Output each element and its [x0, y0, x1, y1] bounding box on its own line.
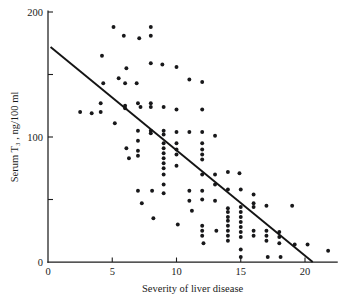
- data-point: [200, 80, 204, 84]
- fit-line: [51, 47, 313, 262]
- data-point: [162, 156, 166, 160]
- data-point: [175, 65, 179, 69]
- x-axis-title: Severity of liver disease: [142, 283, 244, 294]
- data-point: [187, 130, 191, 134]
- data-point: [239, 255, 243, 259]
- x-tick-label-20: 20: [300, 266, 311, 277]
- data-point: [265, 229, 269, 233]
- data-point: [306, 243, 310, 247]
- data-point: [162, 105, 166, 109]
- data-point: [160, 63, 164, 67]
- data-point: [175, 141, 179, 145]
- data-point: [162, 146, 166, 150]
- data-point: [239, 230, 243, 234]
- data-point: [99, 110, 103, 114]
- data-point: [124, 66, 128, 70]
- data-point: [239, 235, 243, 239]
- x-tick-label-15: 15: [236, 266, 247, 277]
- data-point: [226, 234, 230, 238]
- data-point: [175, 108, 179, 112]
- data-point: [239, 225, 243, 229]
- y-tick-label-200: 200: [27, 7, 43, 18]
- data-point: [136, 189, 140, 193]
- x-tick-label-5: 5: [110, 266, 115, 277]
- data-point: [200, 189, 204, 193]
- y-tick-label-100: 100: [27, 132, 43, 143]
- data-point: [123, 81, 127, 85]
- data-point: [162, 133, 166, 137]
- data-point: [239, 215, 243, 219]
- data-point: [200, 148, 204, 152]
- data-point: [326, 249, 330, 253]
- axes: [48, 11, 337, 262]
- data-point: [135, 81, 139, 85]
- data-point: [112, 25, 116, 29]
- data-point: [136, 154, 140, 158]
- data-point: [200, 224, 204, 228]
- data-point: [226, 239, 230, 243]
- y-tick-label-0: 0: [38, 257, 43, 268]
- data-point: [162, 191, 166, 195]
- data-point: [101, 81, 105, 85]
- data-point: [252, 205, 256, 209]
- plot-canvas: 051015200100200 Severity of liver diseas…: [0, 0, 364, 303]
- data-point: [90, 111, 94, 115]
- data-point: [113, 121, 117, 125]
- data-point: [190, 209, 194, 213]
- data-point: [175, 164, 179, 168]
- data-point: [252, 229, 256, 233]
- data-point: [200, 141, 204, 145]
- data-point: [279, 255, 283, 259]
- x-tick-label-0: 0: [45, 266, 50, 277]
- data-point: [149, 34, 153, 38]
- data-point: [200, 130, 204, 134]
- data-point: [162, 151, 166, 155]
- data-point: [200, 229, 204, 233]
- data-point: [78, 110, 82, 114]
- data-point: [162, 129, 166, 133]
- data-point: [175, 153, 179, 157]
- data-point: [124, 146, 128, 150]
- data-point: [226, 219, 230, 223]
- data-point: [277, 241, 281, 245]
- data-point: [252, 234, 256, 238]
- data-point: [187, 199, 191, 203]
- data-points: [78, 25, 330, 259]
- data-point: [239, 210, 243, 214]
- data-point: [239, 220, 243, 224]
- data-point: [136, 129, 140, 133]
- data-point: [213, 173, 217, 177]
- data-point: [252, 193, 256, 197]
- data-point: [226, 206, 230, 210]
- data-point: [265, 204, 269, 208]
- data-point: [213, 134, 217, 138]
- data-point: [99, 101, 103, 105]
- data-point: [226, 210, 230, 214]
- data-point: [214, 229, 218, 233]
- data-point: [290, 204, 294, 208]
- data-point: [200, 234, 204, 238]
- data-point: [252, 201, 256, 205]
- data-point: [266, 255, 270, 259]
- data-point: [162, 173, 166, 177]
- data-point: [139, 105, 143, 109]
- data-point: [162, 161, 166, 165]
- data-point: [226, 224, 230, 228]
- data-point: [136, 139, 140, 143]
- data-point: [100, 54, 104, 58]
- data-point: [213, 199, 217, 203]
- data-point: [187, 78, 191, 82]
- regression-line: [51, 47, 313, 262]
- data-point: [162, 166, 166, 170]
- data-point: [176, 223, 180, 227]
- data-point: [202, 241, 206, 245]
- data-point: [187, 189, 191, 193]
- data-point: [265, 239, 269, 243]
- data-point: [226, 229, 230, 233]
- data-point: [149, 105, 153, 109]
- data-point: [226, 215, 230, 219]
- data-point: [137, 36, 141, 40]
- data-point: [200, 108, 204, 112]
- data-point: [226, 170, 230, 174]
- data-point: [136, 149, 140, 153]
